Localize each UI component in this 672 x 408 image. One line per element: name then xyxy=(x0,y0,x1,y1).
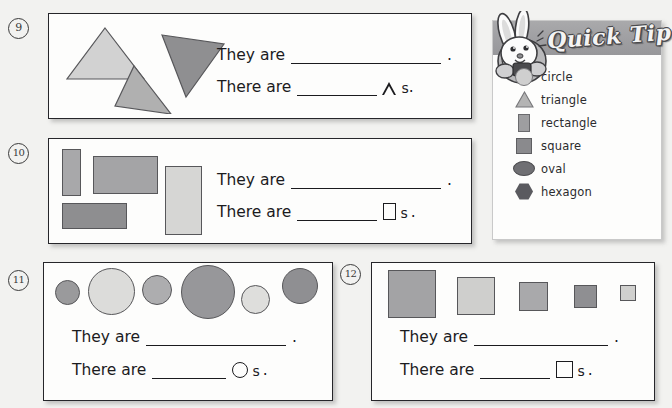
period-12b: . xyxy=(588,361,593,379)
prompt-they-are-10: They are . xyxy=(217,171,452,189)
period-9a: . xyxy=(447,46,452,64)
legend-row-circle: circle xyxy=(507,65,657,88)
legend-row-rectangle: rectangle xyxy=(507,111,657,134)
plural-suffix-10: s xyxy=(400,205,407,221)
circle-small-light-11 xyxy=(241,285,270,314)
problem-box-10: They are . There are s . xyxy=(48,138,472,244)
triangle-figures-9 xyxy=(61,22,251,114)
square-outline-glyph xyxy=(556,361,573,378)
prompt-there-are-11: There are s . xyxy=(72,361,268,379)
problem-box-9: They are . There are s . xyxy=(48,13,472,119)
period-11b: . xyxy=(263,361,268,379)
problem-box-11: They are . There are s . xyxy=(43,262,333,401)
square-icon xyxy=(507,138,541,154)
problem-number-12: 12 xyxy=(340,264,361,285)
legend-label-circle: circle xyxy=(541,70,573,84)
legend-label-square: square xyxy=(541,139,581,153)
circle-outline-glyph xyxy=(232,362,248,378)
legend-label-oval: oval xyxy=(541,162,566,176)
legend-label-rectangle: rectangle xyxy=(541,116,597,130)
rectangle-narrow-vertical-10 xyxy=(62,149,81,196)
prompt-they-are-12: They are . xyxy=(400,328,619,346)
legend-row-oval: oval xyxy=(507,157,657,180)
rectangle-icon xyxy=(507,114,541,132)
period-12a: . xyxy=(614,328,619,346)
prompt-there-are-10: There are s . xyxy=(217,203,416,221)
circle-medium-gray-11 xyxy=(142,275,172,305)
answer-blank-12b[interactable] xyxy=(480,367,550,379)
answer-blank-10a[interactable] xyxy=(291,177,441,189)
they-are-label-12: They are xyxy=(400,328,468,346)
triangle-outline-glyph xyxy=(382,82,397,95)
square-medium-12 xyxy=(519,282,548,311)
period-9b: . xyxy=(409,78,414,96)
period-10b: . xyxy=(411,203,416,221)
circle-small-dark-11 xyxy=(55,280,80,305)
there-are-label-9: There are xyxy=(217,78,291,96)
they-are-label-10: They are xyxy=(217,171,285,189)
period-10a: . xyxy=(447,171,452,189)
square-small-12 xyxy=(574,285,597,308)
legend-row-hexagon: hexagon xyxy=(507,180,657,203)
triangle-icon xyxy=(507,91,541,108)
period-11a: . xyxy=(292,328,297,346)
rectangle-tall-light-10 xyxy=(165,166,202,235)
legend-label-triangle: triangle xyxy=(541,93,587,107)
circle-xlarge-dark-11 xyxy=(181,265,235,319)
legend-row-square: square xyxy=(507,134,657,157)
circle-icon xyxy=(507,68,541,86)
they-are-label-11: They are xyxy=(72,328,140,346)
answer-blank-10b[interactable] xyxy=(297,209,377,221)
legend-row-triangle: triangle xyxy=(507,88,657,111)
square-xlarge-12 xyxy=(388,270,436,318)
answer-blank-9a[interactable] xyxy=(291,52,441,64)
circle-medium-dark-11 xyxy=(282,268,318,304)
problem-number-9: 9 xyxy=(8,18,29,39)
rectangle-wide-horizontal-10 xyxy=(93,156,158,194)
answer-blank-11a[interactable] xyxy=(146,334,286,346)
legend-label-hexagon: hexagon xyxy=(541,185,592,199)
answer-blank-12a[interactable] xyxy=(474,334,608,346)
problem-box-12: They are . There are s . xyxy=(371,262,655,401)
there-are-label-10: There are xyxy=(217,203,291,221)
prompt-they-are-9: They are . xyxy=(217,46,452,64)
problem-number-10: 10 xyxy=(8,143,29,164)
they-are-label-9: They are xyxy=(217,46,285,64)
problem-number-11: 11 xyxy=(8,270,29,291)
hexagon-icon xyxy=(507,183,541,200)
answer-blank-11b[interactable] xyxy=(152,367,226,379)
square-tiny-12 xyxy=(620,285,636,301)
rectangle-dark-horizontal-10 xyxy=(62,203,127,229)
square-large-light-12 xyxy=(457,277,495,315)
answer-blank-9b[interactable] xyxy=(297,84,377,96)
there-are-label-12: There are xyxy=(400,361,474,379)
prompt-there-are-9: There are s . xyxy=(217,78,414,96)
plural-suffix-12: s xyxy=(577,363,584,379)
plural-suffix-9: s xyxy=(401,80,408,96)
shape-legend: circle triangle rectangle square oval xyxy=(507,65,657,203)
prompt-they-are-11: They are . xyxy=(72,328,297,346)
plural-suffix-11: s xyxy=(252,363,259,379)
there-are-label-11: There are xyxy=(72,361,146,379)
quick-tip-box: Quick Tip circle xyxy=(492,20,662,240)
circle-large-light-11 xyxy=(88,268,135,315)
oval-icon xyxy=(507,161,541,176)
prompt-there-are-12: There are s . xyxy=(400,361,593,379)
rectangle-outline-glyph xyxy=(383,203,396,220)
